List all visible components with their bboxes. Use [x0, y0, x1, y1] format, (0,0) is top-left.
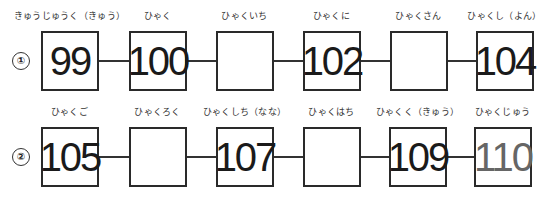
connector-line: [273, 60, 304, 62]
answer-box[interactable]: [216, 31, 274, 91]
number-row-1: ① きゅうじゅうく（きゅう） 99 ひゃく 100 ひゃくいち ひゃくに 102…: [0, 0, 545, 99]
number-box: 110: [474, 127, 532, 187]
number-box: 99: [41, 31, 99, 91]
answer-box[interactable]: [390, 31, 448, 91]
number-box: 105: [41, 127, 99, 187]
cell-reading: ひゃくじゅう: [444, 105, 545, 118]
cell-reading: ひゃくし（よん）: [446, 9, 545, 22]
row-marker: ①: [12, 52, 30, 70]
connector-line: [273, 156, 304, 158]
number-box: 100: [129, 31, 187, 91]
number-box: 104: [476, 31, 534, 91]
number-box: 107: [216, 127, 274, 187]
connector-line: [186, 156, 217, 158]
connector-line: [360, 60, 391, 62]
answer-box[interactable]: [129, 127, 187, 187]
number-box: 102: [303, 31, 361, 91]
connector-line: [360, 156, 391, 158]
number-value: 104: [475, 39, 536, 84]
connector-line: [186, 60, 217, 62]
number-value: 110: [474, 135, 532, 180]
number-value: 105: [40, 135, 101, 180]
number-value: 109: [388, 135, 449, 180]
row-marker: ②: [12, 148, 30, 166]
number-box: 109: [389, 127, 447, 187]
number-value: 99: [50, 39, 91, 84]
number-row-2: ② ひゃくご 105 ひゃくろく ひゃくしち（なな） 107 ひゃくはち ひゃく…: [0, 96, 545, 195]
number-value: 100: [128, 39, 189, 84]
number-value: 107: [215, 135, 276, 180]
connector-line: [98, 156, 132, 158]
number-value: 102: [302, 39, 363, 84]
answer-box[interactable]: [303, 127, 361, 187]
connector-line: [446, 156, 477, 158]
